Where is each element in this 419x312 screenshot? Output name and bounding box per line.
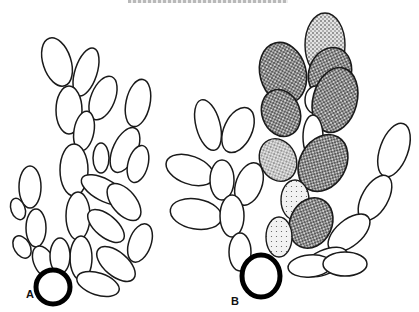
figure-illustration (0, 0, 419, 312)
panel-label-a: A (26, 288, 34, 300)
panel-b-drawing (162, 13, 417, 297)
panel-label-b: B (231, 295, 239, 307)
panel-a-drawing (8, 34, 158, 304)
